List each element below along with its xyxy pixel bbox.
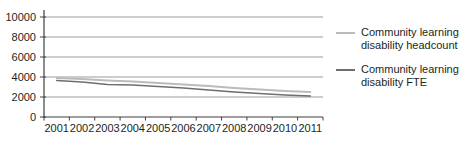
- legend-label-headcount: Community learning disability headcount: [361, 26, 459, 52]
- x-tick-label: 2005: [146, 122, 170, 134]
- legend-item-fte: Community learning disability FTE: [336, 63, 459, 89]
- x-tick-label: 2008: [222, 122, 246, 134]
- legend-label-line: disability FTE: [361, 76, 459, 89]
- legend-label-line: Community learning: [361, 63, 459, 76]
- legend-label-line: Community learning: [361, 26, 459, 39]
- fte-series-swatch: [336, 69, 355, 71]
- y-tick-label: 4000: [12, 71, 36, 83]
- legend-item-headcount: Community learning disability headcount: [336, 26, 459, 52]
- headcount-series-swatch: [336, 32, 355, 34]
- x-tick-label: 2007: [197, 122, 221, 134]
- y-tick-label: 6000: [12, 51, 36, 63]
- x-tick-label: 2002: [70, 122, 94, 134]
- y-tick-label: 2000: [12, 91, 36, 103]
- y-tick-label: 8000: [12, 31, 36, 43]
- x-tick-label: 2009: [247, 122, 271, 134]
- x-tick-label: 2011: [298, 122, 322, 134]
- x-tick-label: 2003: [95, 122, 119, 134]
- x-tick-label: 2006: [171, 122, 195, 134]
- series-line-fte: [57, 81, 311, 97]
- x-tick-label: 2010: [273, 122, 297, 134]
- y-tick-label: 0: [30, 111, 36, 123]
- legend-label-fte: Community learning disability FTE: [361, 63, 459, 89]
- x-tick-label: 2004: [121, 122, 145, 134]
- legend: Community learning disability headcount …: [336, 26, 459, 100]
- y-tick-label: 10000: [5, 11, 36, 23]
- x-tick-label: 2001: [44, 122, 68, 134]
- chart-canvas: 0200040006000800010000200120022003200420…: [0, 0, 463, 147]
- legend-label-line: disability headcount: [361, 39, 459, 52]
- series-line-headcount: [57, 78, 311, 92]
